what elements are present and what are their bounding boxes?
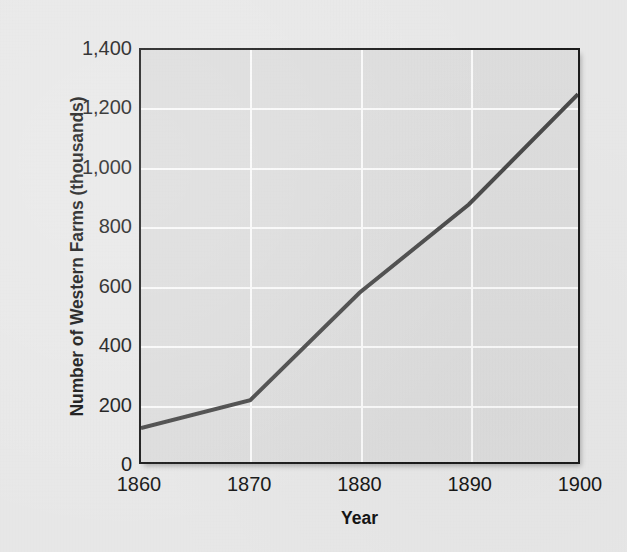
y-axis-tick-label: 0 xyxy=(58,454,132,474)
y-axis-tick-labels: 02004006008001,0001,2001,400 xyxy=(52,0,132,552)
x-axis-title: Year xyxy=(139,508,580,529)
y-axis-tick-label: 200 xyxy=(58,395,132,415)
x-axis-tick-label: 1880 xyxy=(310,474,410,494)
y-axis-tick-label: 600 xyxy=(58,276,132,296)
x-axis-tick-label: 1890 xyxy=(420,474,520,494)
x-axis-tick-label: 1860 xyxy=(89,474,189,494)
line-chart-figure: Number of Western Farms (thousands) 0200… xyxy=(0,0,627,552)
y-axis-tick-label: 1,000 xyxy=(58,157,132,177)
plot-inner xyxy=(141,50,578,462)
y-axis-tick-label: 800 xyxy=(58,216,132,236)
x-axis-tick-label: 1870 xyxy=(199,474,299,494)
plot-area xyxy=(139,48,580,464)
x-axis-tick-label: 1900 xyxy=(530,474,627,494)
y-axis-tick-label: 1,400 xyxy=(58,38,132,58)
x-axis-tick-labels: 18601870188018901900 xyxy=(0,474,627,504)
y-axis-tick-label: 1,200 xyxy=(58,97,132,117)
data-series-line xyxy=(141,50,578,462)
y-axis-tick-label: 400 xyxy=(58,335,132,355)
